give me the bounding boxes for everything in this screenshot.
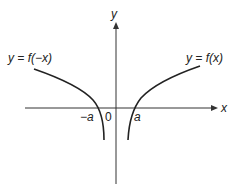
curve-label-f-neg-x: y = f(−x) xyxy=(7,51,52,65)
origin-label: 0 xyxy=(105,110,112,124)
y-axis-arrow-icon xyxy=(113,22,119,29)
a-label: a xyxy=(134,110,141,124)
y-axis-label: y xyxy=(110,7,118,21)
curve-f-x xyxy=(128,66,200,140)
curve-label-f-x: y = f(x) xyxy=(185,51,223,65)
neg-a-label: −a xyxy=(80,110,94,124)
x-axis-label: x xyxy=(220,101,228,115)
diagram-canvas: y x 0 −a a y = f(−x) y = f(x) xyxy=(0,0,235,191)
curve-f-neg-x xyxy=(34,69,104,140)
x-axis-arrow-icon xyxy=(211,105,218,111)
